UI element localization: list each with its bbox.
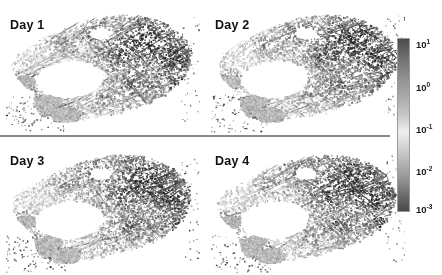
colorbar: 10110010-110-210-3 xyxy=(396,34,442,216)
map-panel-day-1: Day 1 xyxy=(0,2,200,134)
colorbar-tick-3: 10-2 xyxy=(416,167,432,177)
figure-root: Day 1 Day 2 Day 3 Day 4 10110010-110-210… xyxy=(0,0,442,275)
row-divider xyxy=(0,135,390,137)
colorbar-tick-0: 101 xyxy=(416,40,430,50)
map-panel-day-2: Day 2 xyxy=(205,2,405,134)
map-panel-day-4: Day 4 xyxy=(205,142,405,275)
panel-label-day-4: Day 4 xyxy=(215,154,249,168)
panel-label-day-2: Day 2 xyxy=(215,18,249,32)
colorbar-tick-2: 10-1 xyxy=(416,125,432,135)
map-panel-day-3: Day 3 xyxy=(0,142,200,275)
panel-label-day-3: Day 3 xyxy=(10,154,44,168)
colorbar-tick-1: 100 xyxy=(416,83,430,93)
colorbar-tick-4: 10-3 xyxy=(416,205,432,215)
panel-label-day-1: Day 1 xyxy=(10,18,44,32)
colorbar-gradient xyxy=(397,38,410,212)
